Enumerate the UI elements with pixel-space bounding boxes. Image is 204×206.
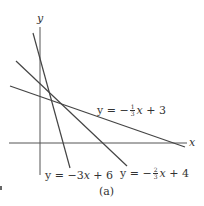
figure-caption: (a) — [99, 186, 114, 197]
line3-prefix: y = − — [97, 104, 129, 117]
line1-suffix: + 6 — [90, 169, 113, 182]
line2-suffix: + 4 — [166, 167, 189, 180]
line1-prefix: y = −3 — [45, 169, 84, 182]
line3-suffix: + 3 — [143, 104, 166, 117]
line3-fraction: 13 — [130, 104, 136, 117]
x-axis-label: x — [189, 137, 195, 148]
line2-prefix: y = − — [120, 167, 152, 180]
label-line1: y = −3x + 6 — [45, 170, 113, 181]
edge-mark — [0, 186, 2, 190]
label-line2: y = −23x + 4 — [120, 167, 189, 180]
y-axis-label: y — [37, 13, 43, 24]
line2-fraction: 23 — [153, 167, 159, 180]
label-line3: y = −13x + 3 — [97, 104, 166, 117]
